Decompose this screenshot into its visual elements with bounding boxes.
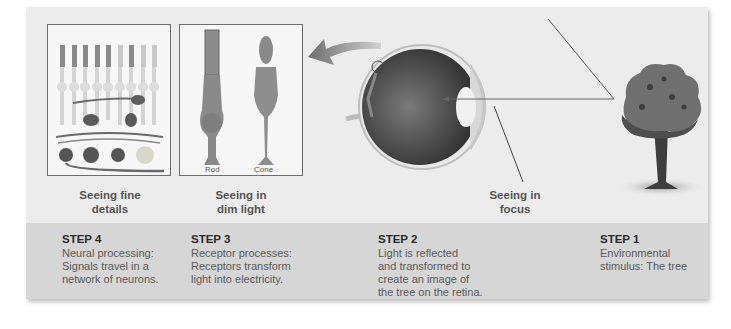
step-2-title: STEP 2 [378, 233, 483, 246]
step-4: STEP 4 Neural processing: Signals travel… [62, 233, 159, 286]
step-4-title: STEP 4 [62, 233, 159, 246]
step-3-title: STEP 3 [191, 233, 292, 246]
caption-dim-light: Seeing in dim light [182, 188, 300, 216]
tree-illustration [606, 57, 726, 197]
caption-fine-details: Seeing fine details [51, 188, 169, 216]
step-3: STEP 3 Receptor processes: Receptors tra… [191, 233, 292, 286]
caption-focus: Seeing in focus [465, 188, 565, 216]
step-2: STEP 2 Light is reflected and transforme… [378, 233, 483, 299]
step-3-desc: Receptor processes: Receptors transform … [191, 247, 292, 286]
step-1-desc: Environmental stimulus: The tree [600, 247, 687, 273]
step-2-desc: Light is reflected and transformed to cr… [378, 247, 483, 299]
steps-band: STEP 4 Neural processing: Signals travel… [26, 223, 708, 299]
step-4-desc: Neural processing: Signals travel in a n… [62, 247, 159, 286]
step-1: STEP 1 Environmental stimulus: The tree [600, 233, 687, 273]
step-1-title: STEP 1 [600, 233, 687, 246]
figure-panel: Rod Cone [26, 7, 708, 299]
